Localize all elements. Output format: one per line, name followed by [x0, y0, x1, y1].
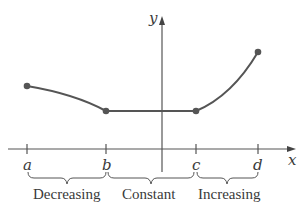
point-b: [103, 108, 110, 115]
interval-label-decreasing: Decreasing: [33, 186, 101, 202]
point-d: [255, 49, 262, 56]
brace-increasing: [197, 172, 258, 184]
point-c: [193, 108, 200, 115]
diagram-svg: y x a b c d Decreasing Constant Increasi…: [0, 0, 308, 210]
interval-label-increasing: Increasing: [198, 186, 261, 202]
tick-label-c: c: [192, 156, 201, 174]
brace-decreasing: [28, 172, 106, 184]
tick-label-b: b: [102, 156, 112, 174]
point-a: [24, 83, 31, 90]
x-axis-label: x: [288, 151, 297, 169]
y-axis-label: y: [148, 9, 158, 27]
y-axis-arrow-icon: [159, 16, 165, 25]
function-behavior-diagram: y x a b c d Decreasing Constant Increasi…: [0, 0, 308, 210]
increasing-segment: [196, 52, 258, 111]
decreasing-segment: [27, 86, 106, 111]
brace-constant: [108, 172, 194, 184]
tick-label-d: d: [253, 156, 263, 174]
tick-label-a: a: [23, 156, 32, 174]
interval-label-constant: Constant: [122, 186, 176, 202]
